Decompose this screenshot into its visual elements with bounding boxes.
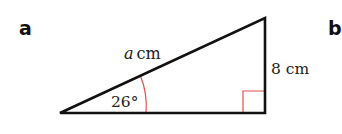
hypotenuse-var: a [124, 44, 134, 63]
hypotenuse-label: acm [124, 44, 161, 63]
right-angle-marker [243, 91, 265, 113]
hypotenuse-unit: cm [137, 44, 161, 63]
angle-arc [141, 76, 147, 113]
triangle-outline [60, 18, 265, 113]
angle-label: 26° [111, 93, 138, 111]
opposite-side-label: 8 cm [271, 60, 309, 78]
